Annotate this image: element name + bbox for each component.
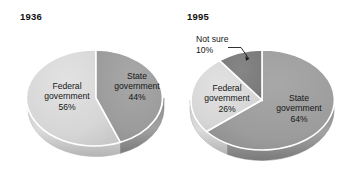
pie-1995-slices (191, 50, 334, 150)
pie-chart-1936 (26, 48, 172, 164)
chart-title-1936: 1936 (20, 11, 42, 22)
pie-1936-svg (26, 48, 172, 164)
slice-label-1995-not-sure-value: 10% (196, 45, 213, 55)
pie-chart-1995 (186, 49, 338, 167)
slice-label-1995-not-sure: Not sure 10% (196, 34, 266, 55)
pie-chart-figure: 1936 (0, 0, 350, 176)
chart-title-1995: 1995 (187, 11, 209, 22)
pie-1936-slices (26, 50, 162, 146)
pie-1995-svg (186, 49, 338, 167)
slice-label-1995-not-sure-line1: Not sure (196, 34, 228, 44)
